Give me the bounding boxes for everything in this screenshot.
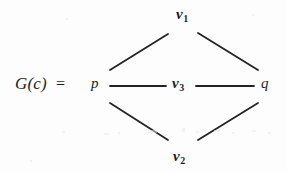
graph-figure: G(c) = p v1 v3 v2 q bbox=[0, 0, 287, 172]
vertex-v1-base: v bbox=[176, 6, 183, 22]
vertex-label-v1: v1 bbox=[176, 7, 188, 22]
equation-left-side: G(c) bbox=[15, 75, 47, 92]
edge-v2-q bbox=[198, 103, 258, 140]
vertex-v1-subscript: 1 bbox=[183, 13, 188, 24]
vertex-v3-subscript: 3 bbox=[179, 82, 184, 93]
edge-p-v1 bbox=[110, 34, 168, 70]
edge-v1-q bbox=[198, 33, 258, 70]
vertex-q-base: q bbox=[261, 75, 269, 91]
equals-sign: = bbox=[56, 76, 65, 92]
vertex-label-v3: v3 bbox=[172, 76, 184, 91]
vertex-v2-subscript: 2 bbox=[180, 155, 185, 166]
vertex-v2-base: v bbox=[173, 148, 180, 164]
vertex-p-base: p bbox=[91, 75, 99, 91]
vertex-v3-base: v bbox=[172, 75, 179, 91]
vertex-label-v2: v2 bbox=[173, 149, 185, 164]
vertex-label-p: p bbox=[91, 76, 99, 91]
edge-p-v2 bbox=[110, 103, 168, 140]
vertex-label-q: q bbox=[261, 76, 269, 91]
